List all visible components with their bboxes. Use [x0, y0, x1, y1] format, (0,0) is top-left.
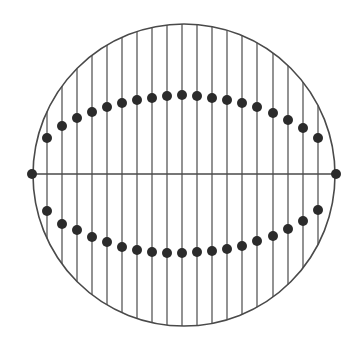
lower-ellipse-point — [162, 248, 172, 258]
lower-ellipse-point — [252, 236, 262, 246]
outer-circle — [33, 24, 335, 326]
upper-ellipse-point — [207, 93, 217, 103]
upper-ellipse-point — [192, 91, 202, 101]
upper-ellipse-point — [177, 90, 187, 100]
lower-ellipse-point — [268, 231, 278, 241]
upper-ellipse-point — [132, 95, 142, 105]
diameter-endpoint-dot — [27, 169, 37, 179]
upper-ellipse-point — [42, 133, 52, 143]
diagram-canvas — [0, 0, 358, 354]
lower-ellipse-point — [222, 244, 232, 254]
lower-ellipse-point — [72, 225, 82, 235]
upper-ellipse-point — [117, 98, 127, 108]
lower-ellipse-point — [147, 247, 157, 257]
upper-ellipse-point — [298, 123, 308, 133]
lower-ellipse-point — [42, 206, 52, 216]
upper-ellipse-point — [237, 98, 247, 108]
ellipse-construction-diagram — [0, 0, 358, 354]
lower-ellipse-point — [132, 245, 142, 255]
upper-ellipse-point — [222, 95, 232, 105]
upper-ellipse-point — [313, 133, 323, 143]
lower-ellipse-point — [87, 232, 97, 242]
lower-ellipse-point — [192, 247, 202, 257]
lower-ellipse-point — [102, 237, 112, 247]
lower-ellipse-point — [177, 248, 187, 258]
lower-ellipse-point — [237, 241, 247, 251]
lower-ellipse-point — [313, 205, 323, 215]
lower-ellipse-point — [298, 216, 308, 226]
lower-ellipse-point — [207, 246, 217, 256]
lower-ellipse-point — [283, 224, 293, 234]
vertical-lines-group — [47, 24, 318, 326]
upper-ellipse-point — [147, 93, 157, 103]
upper-ellipse-point — [102, 102, 112, 112]
upper-ellipse-point — [87, 107, 97, 117]
upper-ellipse-point — [283, 115, 293, 125]
lower-ellipse-point — [117, 242, 127, 252]
upper-ellipse-point — [72, 113, 82, 123]
upper-ellipse-point — [268, 108, 278, 118]
lower-ellipse-point — [57, 219, 67, 229]
upper-ellipse-point — [57, 121, 67, 131]
diameter-endpoint-dot — [331, 169, 341, 179]
upper-ellipse-point — [162, 91, 172, 101]
upper-ellipse-point — [252, 102, 262, 112]
